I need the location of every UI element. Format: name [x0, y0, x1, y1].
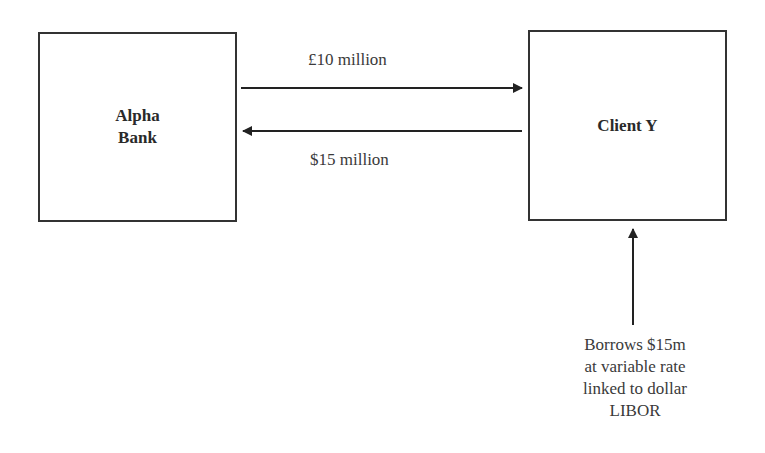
pound-flow-label: £10 million	[308, 50, 387, 70]
alpha-bank-node: Alpha Bank	[38, 32, 237, 222]
alpha-bank-label-line1: Alpha	[115, 105, 159, 127]
borrowing-note: Borrows $15m at variable rate linked to …	[560, 334, 710, 422]
note-line-4: LIBOR	[560, 400, 710, 422]
note-line-2: at variable rate	[560, 356, 710, 378]
note-line-1: Borrows $15m	[560, 334, 710, 356]
client-y-label: Client Y	[597, 115, 657, 137]
alpha-bank-label-line2: Bank	[115, 127, 159, 149]
client-y-node: Client Y	[528, 30, 727, 221]
note-line-3: linked to dollar	[560, 378, 710, 400]
dollar-flow-label: $15 million	[310, 150, 389, 170]
